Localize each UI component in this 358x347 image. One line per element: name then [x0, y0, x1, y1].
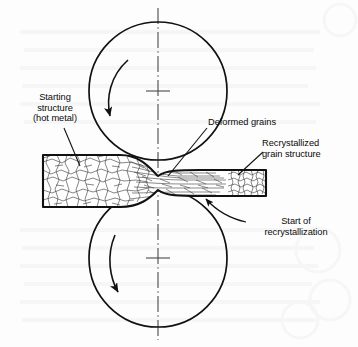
leader-deformed-grains [168, 128, 207, 176]
label-recrystallized-grain-structure: Recrystallized grain structure [262, 138, 354, 159]
label-starting-structure: Starting structure (hot metal) [14, 92, 96, 124]
label-start-of-recrystallization: Start of recrystallization [240, 216, 352, 237]
metal-slab [43, 155, 266, 207]
rolling-recrystallization-figure: Starting structure (hot metal) Deformed … [0, 0, 358, 347]
diagram-canvas [0, 0, 358, 347]
label-deformed-grains: Deformed grains [208, 117, 300, 128]
